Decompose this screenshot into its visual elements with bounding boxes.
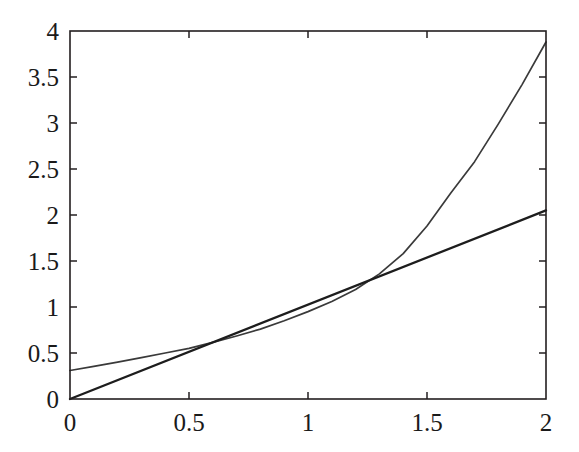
x-tick-label: 1.5 xyxy=(411,409,442,436)
y-tick-label: 3 xyxy=(47,110,60,137)
x-tick-label: 1 xyxy=(302,409,315,436)
x-tick-label: 2 xyxy=(540,409,553,436)
x-tick-label: 0 xyxy=(64,409,77,436)
figure-canvas: 00.511.522.533.54 00.511.52 xyxy=(0,0,579,452)
figure-background xyxy=(0,0,579,452)
y-tick-label: 1 xyxy=(47,294,60,321)
y-tick-label: 0 xyxy=(47,386,60,413)
y-tick-label: 1.5 xyxy=(28,248,59,275)
y-tick-label: 3.5 xyxy=(28,64,59,91)
y-tick-label: 2 xyxy=(47,202,60,229)
x-tick-label: 0.5 xyxy=(173,409,204,436)
y-tick-label: 4 xyxy=(47,18,60,45)
y-tick-label: 2.5 xyxy=(28,156,59,183)
plot-svg: 00.511.522.533.54 00.511.52 xyxy=(0,0,579,452)
y-tick-label: 0.5 xyxy=(28,340,59,367)
